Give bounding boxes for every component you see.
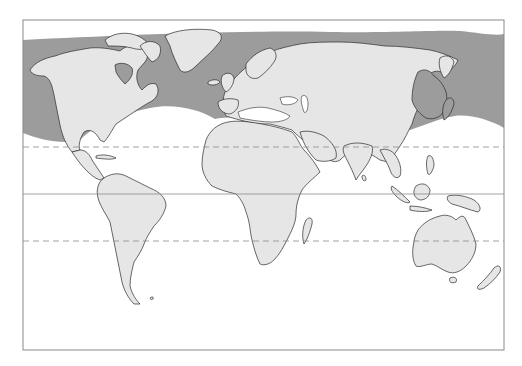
land-borneo bbox=[414, 184, 430, 200]
map-canvas bbox=[0, 0, 522, 366]
land-philippines bbox=[427, 156, 435, 175]
land-africa bbox=[202, 121, 320, 265]
land-cuba bbox=[96, 155, 116, 159]
land-falklands bbox=[150, 297, 153, 300]
land-india bbox=[343, 143, 372, 180]
land-central-america bbox=[72, 150, 104, 180]
land-southeast-asia bbox=[380, 149, 401, 177]
land-madagascar bbox=[303, 218, 313, 244]
land-australia bbox=[413, 215, 476, 273]
land-new-guinea bbox=[447, 195, 480, 212]
world-map bbox=[0, 0, 522, 366]
land-sri-lanka bbox=[362, 175, 366, 181]
land-south-america bbox=[97, 174, 166, 304]
land-new-zealand bbox=[477, 266, 500, 289]
land-java bbox=[410, 206, 432, 212]
land-tasmania bbox=[449, 277, 456, 283]
